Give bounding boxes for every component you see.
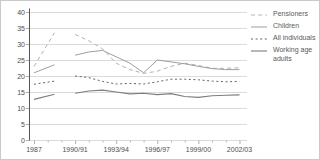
y-tick-label: 5 (21, 121, 25, 128)
legend-label: All individuals (273, 33, 315, 42)
legend-item: Children (251, 21, 317, 30)
legend-line-sample (251, 25, 269, 29)
y-tick-label: 35 (17, 25, 25, 32)
series-line-children (34, 65, 55, 73)
relative-poverty-chart: 051015202530354019871990/911993/941996/9… (0, 0, 320, 160)
y-tick-label: 0 (21, 137, 25, 144)
legend-label: Children (273, 21, 299, 30)
x-tick-label: 1987 (26, 146, 42, 153)
chart-legend: PensionersChildrenAll individualsWorking… (251, 9, 317, 66)
legend-item: Pensioners (251, 9, 317, 18)
series-line-all-individuals (75, 76, 239, 84)
legend-label: Working age adults (273, 45, 317, 63)
y-tick-label: 10 (17, 105, 25, 112)
y-tick-label: 25 (17, 57, 25, 64)
series-line-pensioners (34, 33, 55, 67)
series-line-pensioners (75, 34, 239, 73)
legend-line-sample (251, 13, 269, 17)
y-tick-label: 20 (17, 73, 25, 80)
y-tick-label: 30 (17, 41, 25, 48)
legend-line-sample (251, 37, 269, 41)
legend-line-sample (251, 49, 269, 53)
y-tick-label: 40 (17, 9, 25, 16)
x-tick-label: 1990/91 (62, 146, 87, 153)
x-tick-label: 2002/03 (227, 146, 252, 153)
series-line-children (75, 50, 239, 72)
y-tick-label: 15 (17, 89, 25, 96)
legend-item: All individuals (251, 33, 317, 42)
series-line-working-age-adults (34, 94, 55, 99)
series-line-all-individuals (34, 81, 55, 84)
x-tick-label: 1993/94 (104, 146, 129, 153)
legend-label: Pensioners (273, 9, 308, 18)
x-tick-label: 1996/97 (145, 146, 170, 153)
series-line-working-age-adults (75, 90, 239, 97)
legend-item: Working age adults (251, 45, 317, 63)
x-tick-label: 1999/00 (186, 146, 211, 153)
